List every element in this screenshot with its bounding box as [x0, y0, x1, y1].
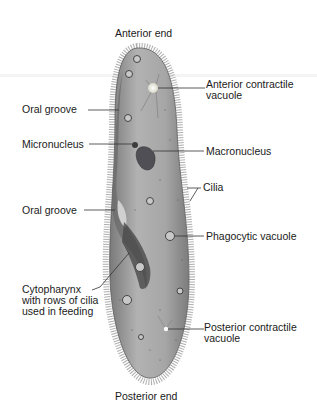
oral-groove-label-top: Oral groove	[22, 104, 77, 115]
micronucleus-label: Micronucleus	[22, 139, 84, 150]
posterior-contractile-vacuole-label-2: vacuole	[204, 333, 240, 344]
cilia-label: Cilia	[203, 182, 223, 193]
paramecium-illustration	[0, 0, 317, 403]
phagocytic-vacuole-label: Phagocytic vacuole	[206, 231, 296, 242]
cytopharynx-label-3: used in feeding	[22, 306, 93, 317]
micronucleus-shape	[132, 142, 138, 148]
oral-groove-label-mid: Oral groove	[22, 205, 77, 216]
anterior-contractile-vacuole-label-2: vacuole	[206, 90, 242, 101]
posterior-contractile-vacuole-shape	[164, 327, 168, 331]
posterior-end-label: Posterior end	[115, 390, 177, 402]
anterior-end-label: Anterior end	[115, 27, 172, 39]
macronucleus-label: Macronucleus	[206, 146, 271, 157]
